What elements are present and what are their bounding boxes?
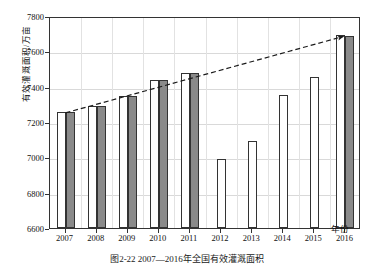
- y-axis-tick-mark: [45, 52, 49, 53]
- x-axis-tick-mark: [158, 229, 159, 233]
- y-axis-tick-mark: [45, 123, 49, 124]
- y-axis-tick-label: 7400: [0, 83, 44, 93]
- x-axis-tick-mark: [189, 229, 190, 233]
- trend-line: [65, 36, 343, 112]
- y-axis-tick-mark: [45, 229, 49, 230]
- trend-line-annotation: [50, 18, 359, 228]
- x-axis-tick-mark: [282, 229, 283, 233]
- x-axis-tick-mark: [127, 229, 128, 233]
- y-axis-tick-mark: [45, 88, 49, 89]
- y-axis-tick-mark: [45, 17, 49, 18]
- y-axis-tick-label: 6800: [0, 189, 44, 199]
- figure-container: 有效灌溉面积/万亩 7800760074007200700068006600 2…: [0, 0, 374, 278]
- x-axis-tick-mark: [251, 229, 252, 233]
- y-axis-tick-label: 7000: [0, 153, 44, 163]
- x-axis-tick-mark: [65, 229, 66, 233]
- x-axis-title: 年份: [331, 222, 349, 234]
- y-axis-tick-mark: [45, 194, 49, 195]
- y-axis-tick-label: 7200: [0, 118, 44, 128]
- y-axis-tick-mark: [45, 158, 49, 159]
- figure-caption: 图2-22 2007—2016年全国有效灌溉面积: [0, 252, 374, 265]
- x-axis-tick-mark: [313, 229, 314, 233]
- y-axis-tick-label: 7800: [0, 12, 44, 22]
- x-axis-tick-label: 2016: [324, 233, 364, 243]
- x-axis-tick-mark: [96, 229, 97, 233]
- y-axis-tick-label: 7600: [0, 47, 44, 57]
- plot-area: [49, 17, 360, 229]
- x-axis-tick-mark: [220, 229, 221, 233]
- y-axis-tick-label: 6600: [0, 224, 44, 234]
